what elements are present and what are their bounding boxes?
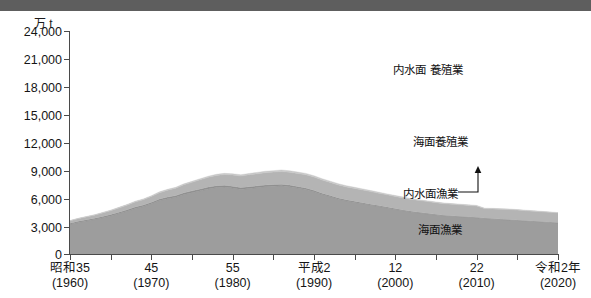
y-tick-label-0: 0: [8, 248, 62, 262]
x-label-year: (1980): [193, 276, 273, 291]
x-axis-tick: [70, 255, 71, 260]
x-axis-tick: [395, 255, 396, 260]
y-tick-label-18000: 18,000: [8, 81, 62, 95]
x-axis-label-1960: 昭和35(1960): [30, 261, 110, 291]
x-axis-label-2000: 12(2000): [355, 261, 435, 291]
series-label-line1: 内水面漁業: [403, 188, 458, 200]
x-axis-label-1980: 55(1980): [193, 261, 273, 291]
x-label-era: 55: [193, 261, 273, 276]
series-label-line1: 内水面: [393, 64, 426, 76]
top-header-bar: [0, 0, 591, 11]
x-axis-label-1990: 平成2(1990): [274, 261, 354, 291]
x-label-year: (1970): [111, 276, 191, 291]
x-label-year: (2010): [437, 276, 517, 291]
x-axis-label-2020: 令和2年(2020): [518, 261, 591, 291]
series-label-line1: 海面養殖業: [413, 136, 468, 148]
y-tick-label-24000: 24,000: [8, 25, 62, 39]
y-tick-label-15000: 15,000: [8, 109, 62, 123]
x-axis-tick: [111, 255, 112, 260]
x-label-era: 45: [111, 261, 191, 276]
x-label-era: 昭和35: [30, 261, 110, 276]
series-label-line1: 海面漁業: [418, 224, 462, 236]
y-tick-label-6000: 6,000: [8, 193, 62, 207]
x-axis-tick: [477, 255, 478, 260]
y-tick-label-3000: 3,000: [8, 221, 62, 235]
y-axis-tick-labels: 24,000 21,000 18,000 15,000 12,000 9,000…: [6, 11, 62, 298]
inland-fisheries-leader-arrow-icon: [458, 166, 494, 196]
y-tick-label-21000: 21,000: [8, 53, 62, 67]
x-axis-tick: [436, 255, 437, 260]
x-label-era: 12: [355, 261, 435, 276]
series-label-inland-fisheries: 内水面漁業: [372, 187, 458, 201]
series-label-line2: 養殖業: [430, 64, 463, 76]
x-label-year: (2020): [518, 276, 591, 291]
x-axis-tick: [151, 255, 152, 260]
x-axis-tick: [558, 255, 559, 260]
x-axis-tick: [192, 255, 193, 260]
fisheries-production-area-chart: 万 t 24,000 21,000 18,000 15,000 12,000 9…: [0, 11, 591, 298]
x-axis-tick: [273, 255, 274, 260]
x-label-era: 令和2年: [518, 261, 591, 276]
x-axis-tick: [355, 255, 356, 260]
x-label-year: (1960): [30, 276, 110, 291]
x-label-year: (2000): [355, 276, 435, 291]
x-axis-tick: [314, 255, 315, 260]
x-label-era: 22: [437, 261, 517, 276]
series-label-marine-fisheries: 海面漁業: [390, 223, 490, 237]
y-tick-label-12000: 12,000: [8, 137, 62, 151]
y-tick-label-9000: 9,000: [8, 165, 62, 179]
x-axis-label-2010: 22(2010): [437, 261, 517, 291]
series-label-inland-aquaculture: 内水面 養殖業: [388, 63, 468, 77]
series-label-marine-aquaculture: 海面養殖業: [390, 135, 490, 149]
x-axis-label-1970: 45(1970): [111, 261, 191, 291]
x-axis-tick: [233, 255, 234, 260]
x-label-era: 平成2: [274, 261, 354, 276]
x-axis-tick: [517, 255, 518, 260]
x-label-year: (1990): [274, 276, 354, 291]
